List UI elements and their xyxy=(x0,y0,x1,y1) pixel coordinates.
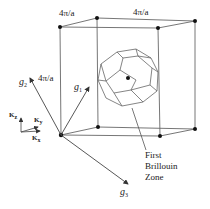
edge-label-top-right: 4π/a xyxy=(133,8,149,17)
g1-arrow xyxy=(61,87,89,135)
kx-label: Kx xyxy=(32,135,40,143)
g2-label: g2 xyxy=(19,77,27,88)
bz-pointer-line xyxy=(132,108,146,150)
lattice-points xyxy=(58,16,197,138)
brillouin-diagram xyxy=(0,0,210,209)
kz-label: Kz xyxy=(9,112,17,120)
edge-label-vertical: 4π/a xyxy=(38,74,54,83)
g3-arrow xyxy=(61,135,128,184)
ky-label: Ky xyxy=(34,117,42,125)
g2-arrow xyxy=(30,78,61,135)
brillouin-zone-label: First Brillouin Zone xyxy=(145,150,178,183)
center-point xyxy=(126,76,130,80)
edge-label-top-left: 4π/a xyxy=(59,9,75,18)
g1-label: g1 xyxy=(74,82,82,93)
g3-label: g3 xyxy=(120,187,128,198)
